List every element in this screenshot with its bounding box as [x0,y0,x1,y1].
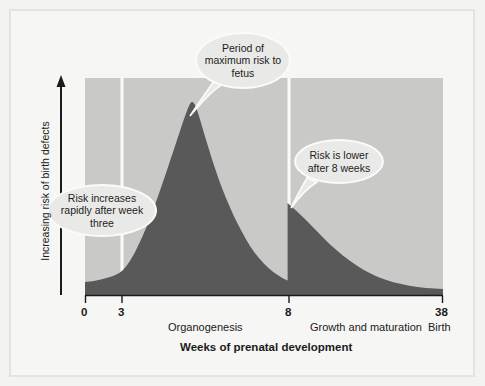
x-tick-label-38: 38 [435,306,448,318]
stage-label-growth-and-maturation: Growth and maturation [310,321,422,333]
callout-peak-text: Period of maximum risk to fetus [203,42,283,80]
stage-label-organogenesis: Organogenesis [168,321,243,333]
callout-risk-increases-rapidly: Risk increases rapidly after week three [47,184,157,237]
callout-early-text: Risk increases rapidly after week three [55,192,149,230]
birth-label: Birth [428,321,451,333]
x-tick-label-8: 8 [285,306,291,318]
figure-root: Period of maximum risk to fetus Risk inc… [0,0,485,386]
x-tick-label-0: 0 [81,306,87,318]
x-axis-title: Weeks of prenatal development [180,341,352,353]
callout-late-text: Risk is lower after 8 weeks [302,149,376,174]
y-axis-arrowhead [57,75,66,87]
x-tick-label-3: 3 [118,306,124,318]
callout-risk-is-lower: Risk is lower after 8 weeks [294,139,384,184]
callout-period-of-maximum-risk: Period of maximum risk to fetus [195,32,291,89]
y-axis-title: Increasing risk of birth defects [39,91,51,291]
